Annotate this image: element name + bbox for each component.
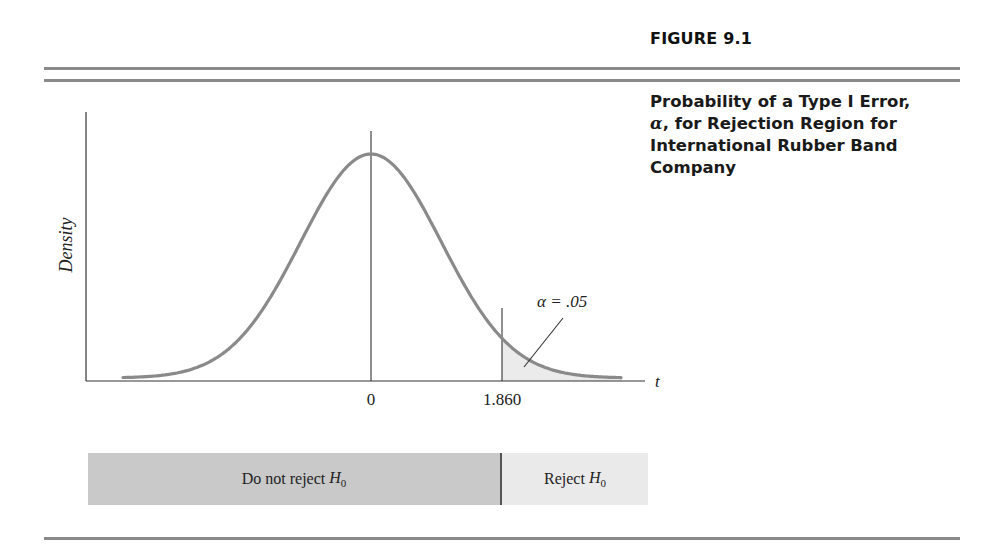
reject-region: Reject H0 <box>502 453 648 505</box>
alpha-leader-line <box>524 318 563 367</box>
decision-regions-bar: Do not reject H0 Reject H0 <box>88 453 648 505</box>
density-curve <box>123 154 621 378</box>
x-axis-label: t <box>655 372 661 391</box>
x-tick-0: 0 <box>367 390 376 409</box>
h0-symbol: H0 <box>589 469 606 489</box>
bottom-rule <box>44 537 960 540</box>
alpha-annotation: α = .05 <box>537 292 587 311</box>
do-not-reject-label: Do not reject <box>242 470 326 488</box>
rejection-region-shading <box>502 338 622 381</box>
y-axis-label: Density <box>56 217 76 273</box>
density-chart: α = .05 0 1.860 t Density <box>0 0 999 440</box>
reject-label: Reject <box>544 470 585 488</box>
h0-symbol: H0 <box>329 469 346 489</box>
do-not-reject-region: Do not reject H0 <box>88 453 502 505</box>
x-tick-critical: 1.860 <box>483 390 521 409</box>
